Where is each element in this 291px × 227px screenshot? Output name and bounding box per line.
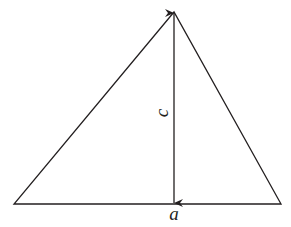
height-label: c (151, 108, 172, 117)
base-label: a (169, 203, 179, 224)
triangle-diagram: c a (0, 0, 291, 227)
triangle-outline (14, 12, 281, 204)
